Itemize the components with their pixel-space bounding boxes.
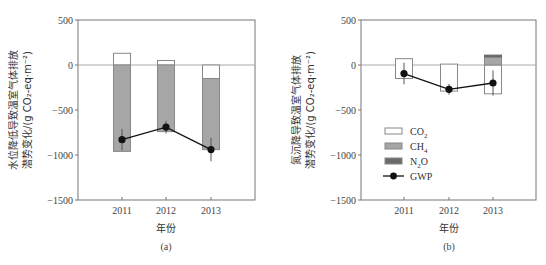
y-tick-label: −500 xyxy=(52,105,73,116)
chart-panel-a: 5000−500−1000−1500201120122013年份(a)水位降低导… xyxy=(7,15,255,254)
y-tick-label: 0 xyxy=(68,60,73,71)
gwp-point xyxy=(162,124,169,131)
bar-stack-2013 xyxy=(203,65,220,150)
x-axis-label: 年份 xyxy=(439,222,459,234)
legend-swatch xyxy=(385,143,402,149)
panel-label: (a) xyxy=(160,241,171,253)
legend-marker xyxy=(390,173,397,180)
legend-label: CO2 xyxy=(410,126,428,140)
bar-co2 xyxy=(158,61,175,66)
y-axis-label: 水位降低导致温室气体排放 xyxy=(7,50,19,170)
y-axis-label: 潜势变化/(g CO₂-eq·m⁻²) xyxy=(21,51,33,169)
x-tick-label: 2012 xyxy=(156,205,176,216)
y-tick-label: −1000 xyxy=(47,150,73,161)
gwp-point xyxy=(400,70,407,77)
panel-label: (b) xyxy=(443,241,455,253)
gwp-point xyxy=(118,136,125,143)
x-tick-label: 2011 xyxy=(394,205,414,216)
y-tick-label: −1000 xyxy=(330,150,356,161)
legend-swatch xyxy=(385,158,402,164)
x-tick-label: 2013 xyxy=(483,205,503,216)
y-tick-label: 500 xyxy=(58,15,73,26)
y-tick-label: −1500 xyxy=(330,195,356,206)
chart-panel-b: 5000−500−1000−1500201120122013年份(b)氮沉降导致… xyxy=(290,15,536,254)
gwp-point xyxy=(489,79,496,86)
bar-ch4 xyxy=(485,57,502,65)
legend-label: N2O xyxy=(410,156,428,170)
y-tick-label: −500 xyxy=(335,105,356,116)
x-tick-label: 2012 xyxy=(439,205,459,216)
legend-label: CH4 xyxy=(410,141,428,155)
y-tick-label: 0 xyxy=(351,60,356,71)
x-tick-label: 2011 xyxy=(112,205,132,216)
gwp-point xyxy=(445,86,452,93)
y-tick-label: −1500 xyxy=(47,195,73,206)
legend-label: GWP xyxy=(410,171,433,182)
x-tick-label: 2013 xyxy=(201,205,221,216)
y-tick-label: 500 xyxy=(341,15,356,26)
legend-swatch xyxy=(385,128,402,134)
bar-co2 xyxy=(114,53,131,65)
bar-n2o xyxy=(485,55,502,57)
gwp-point xyxy=(207,146,214,153)
plot-frame xyxy=(361,20,536,200)
bar-co2 xyxy=(203,65,220,79)
figure: 5000−500−1000−1500201120122013年份(a)水位降低导… xyxy=(0,0,546,265)
x-axis-label: 年份 xyxy=(156,222,176,234)
y-axis-label: 潜势变化/(g CO₂-eq·m⁻²) xyxy=(304,51,316,169)
legend: CO2CH4N2OGWP xyxy=(383,126,433,182)
y-axis-label: 氮沉降导致温室气体排放 xyxy=(290,55,302,165)
